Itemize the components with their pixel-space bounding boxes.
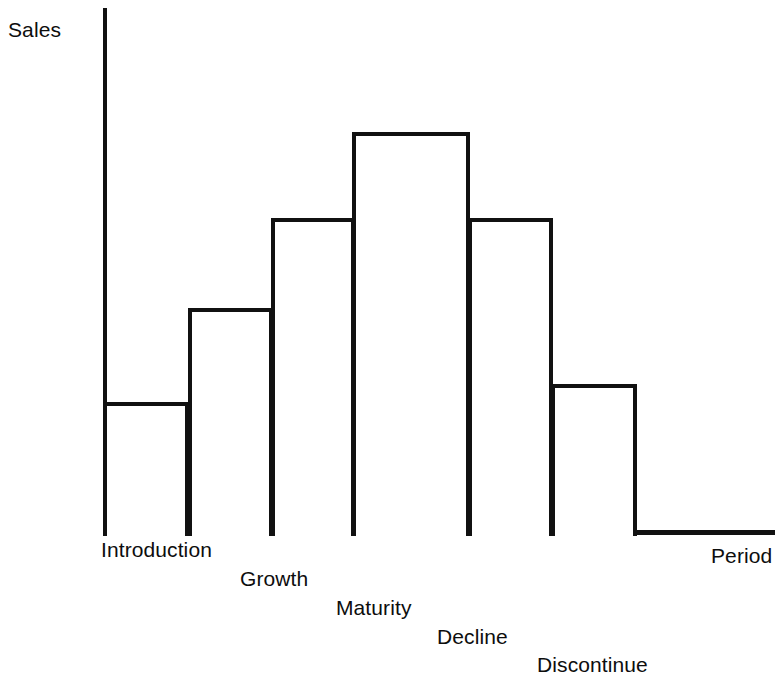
stage-label-introduction: Introduction <box>101 538 212 562</box>
bar-maturity-rise <box>271 218 355 536</box>
bar-maturity-peak <box>352 132 470 536</box>
bar-introduction <box>103 402 189 536</box>
x-axis-title: Period <box>711 544 772 568</box>
bar-growth <box>188 308 273 536</box>
product-life-cycle-chart: Sales Period Introduction Growth Maturit… <box>0 0 775 684</box>
stage-label-growth: Growth <box>240 567 308 591</box>
stage-label-maturity: Maturity <box>336 596 411 620</box>
stage-label-decline: Decline <box>437 625 508 649</box>
bar-discontinue <box>551 384 637 536</box>
bar-decline <box>468 218 553 536</box>
bars-layer <box>0 0 775 684</box>
y-axis-title: Sales <box>8 18 61 42</box>
stage-label-discontinue: Discontinue <box>537 653 648 677</box>
